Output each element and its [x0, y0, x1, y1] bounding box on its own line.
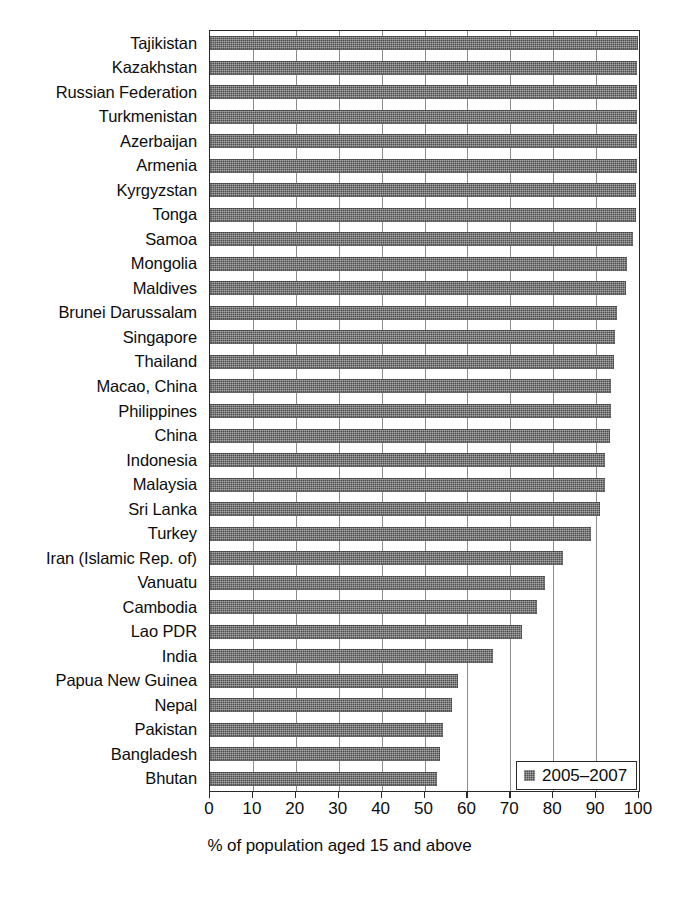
bar	[210, 134, 637, 148]
category-label: Malaysia	[0, 476, 203, 493]
category-label: Lao PDR	[0, 623, 203, 640]
x-tickmark	[466, 791, 467, 798]
category-label: Samoa	[0, 231, 203, 248]
category-label: Tonga	[0, 206, 203, 223]
x-tick-label: 100	[624, 800, 652, 817]
x-tick-label: 20	[285, 800, 304, 817]
category-label: Vanuatu	[0, 574, 203, 591]
category-label: Armenia	[0, 157, 203, 174]
category-label: India	[0, 648, 203, 665]
bar	[210, 281, 626, 295]
category-label: Iran (Islamic Rep. of)	[0, 550, 203, 567]
category-label: Tajikistan	[0, 35, 203, 52]
category-label: Sri Lanka	[0, 501, 203, 518]
bar	[210, 429, 610, 443]
x-tick-label: 80	[543, 800, 562, 817]
bar	[210, 674, 458, 688]
category-label: Thailand	[0, 353, 203, 370]
bar	[210, 527, 591, 541]
category-label: Russian Federation	[0, 84, 203, 101]
category-label: Cambodia	[0, 599, 203, 616]
category-label: Philippines	[0, 403, 203, 420]
category-label: Singapore	[0, 329, 203, 346]
bar	[210, 772, 437, 786]
x-tickmark	[295, 791, 296, 798]
category-label: Indonesia	[0, 452, 203, 469]
x-tick-label: 50	[414, 800, 433, 817]
category-label: Pakistan	[0, 721, 203, 738]
bar	[210, 453, 605, 467]
x-tickmark	[252, 791, 253, 798]
x-tick-label: 30	[328, 800, 347, 817]
bar	[210, 649, 493, 663]
category-label: Papua New Guinea	[0, 672, 203, 689]
category-label: Nepal	[0, 697, 203, 714]
plot-area	[209, 30, 640, 792]
x-tick-label: 40	[371, 800, 390, 817]
legend-swatch-icon	[524, 770, 535, 781]
category-label: Bangladesh	[0, 746, 203, 763]
bar	[210, 551, 563, 565]
category-label: Kazakhstan	[0, 59, 203, 76]
category-label: Bhutan	[0, 770, 203, 787]
x-tick-label: 70	[500, 800, 519, 817]
x-tick-label: 60	[457, 800, 476, 817]
chart-legend: 2005–2007	[516, 761, 637, 790]
x-tickmark	[209, 791, 210, 798]
x-tick-label: 90	[586, 800, 605, 817]
category-label: Kyrgyzstan	[0, 182, 203, 199]
bar	[210, 379, 611, 393]
legend-entry-label: 2005–2007	[542, 767, 627, 784]
x-tickmark	[638, 791, 639, 798]
category-label: Maldives	[0, 280, 203, 297]
bar	[210, 306, 617, 320]
x-tickmark	[595, 791, 596, 798]
bar	[210, 257, 627, 271]
bar	[210, 698, 452, 712]
bar	[210, 600, 537, 614]
x-tick-label: 0	[204, 800, 213, 817]
x-tickmark	[338, 791, 339, 798]
bar	[210, 36, 638, 50]
x-tick-label: 10	[242, 800, 261, 817]
x-tickmark	[424, 791, 425, 798]
bar-chart-figure: TajikistanKazakhstanRussian FederationTu…	[0, 0, 679, 919]
bar	[210, 85, 637, 99]
bar	[210, 330, 615, 344]
category-label: Turkey	[0, 525, 203, 542]
x-tickmark	[552, 791, 553, 798]
x-axis-tickmarks	[209, 791, 640, 799]
bar	[210, 159, 637, 173]
bar	[210, 502, 600, 516]
bar	[210, 747, 440, 761]
category-label: Turkmenistan	[0, 108, 203, 125]
bar	[210, 478, 605, 492]
x-axis-title: % of population aged 15 and above	[0, 836, 679, 856]
bar	[210, 208, 636, 222]
category-label: Azerbaijan	[0, 133, 203, 150]
bar	[210, 61, 637, 75]
bar	[210, 355, 614, 369]
bar	[210, 404, 611, 418]
bar	[210, 232, 633, 246]
bar	[210, 576, 545, 590]
x-tickmark	[381, 791, 382, 798]
category-label: Mongolia	[0, 255, 203, 272]
category-label: Brunei Darussalam	[0, 304, 203, 321]
x-tickmark	[509, 791, 510, 798]
bar	[210, 625, 522, 639]
bar	[210, 723, 443, 737]
x-axis-tick-labels: 0102030405060708090100	[0, 800, 679, 826]
category-label: Macao, China	[0, 378, 203, 395]
bar	[210, 110, 637, 124]
bar	[210, 183, 636, 197]
category-label: China	[0, 427, 203, 444]
category-axis-labels: TajikistanKazakhstanRussian FederationTu…	[0, 30, 203, 790]
